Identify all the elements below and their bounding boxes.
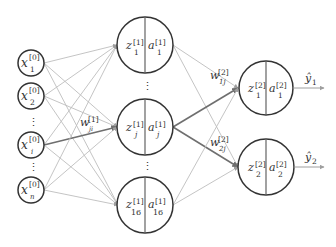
a-var: a bbox=[148, 121, 155, 134]
input-sub: 2 bbox=[30, 98, 35, 107]
hidden-node-16: z [1] 16 a [1] 16 bbox=[117, 177, 173, 233]
input-node-i: x [0] i bbox=[18, 132, 44, 158]
a-sub: 1 bbox=[157, 48, 162, 57]
z-sub: 2 bbox=[256, 170, 261, 179]
a-sub: 2 bbox=[278, 170, 283, 179]
weight-sub: 2j bbox=[218, 145, 226, 153]
z-sub: 16 bbox=[131, 208, 141, 217]
z-var: z bbox=[247, 82, 254, 95]
input-ellipsis-1: ⋮ bbox=[28, 116, 39, 129]
hidden-layer: z [1] 1 a [1] 1 ⋮ z [1] j a [1] j ⋮ z [1… bbox=[117, 17, 173, 233]
y-hat-sub: 1 bbox=[312, 78, 317, 87]
hidden-node-j: z [1] j a [1] j bbox=[117, 99, 173, 155]
input-var: x bbox=[21, 138, 28, 152]
input-node-2: x [0] 2 bbox=[18, 83, 44, 109]
z-sub: 1 bbox=[256, 91, 261, 100]
hidden-ellipsis-2: ⋮ bbox=[142, 160, 153, 173]
a-sup: [1] bbox=[155, 38, 166, 47]
input-ellipsis-2: ⋮ bbox=[28, 161, 39, 174]
z-sup: [1] bbox=[133, 120, 144, 129]
weight-label-w1-ji: w [1] ji bbox=[80, 115, 99, 133]
output-node-1: z [2] 1 a [2] 1 ŷ 1 bbox=[239, 61, 324, 115]
weight-sup: [1] bbox=[88, 115, 99, 124]
a-sup: [1] bbox=[155, 120, 166, 129]
z-sup: [2] bbox=[255, 81, 266, 90]
z-var: z bbox=[125, 39, 132, 52]
input-var: x bbox=[21, 183, 28, 197]
input-sup: [0] bbox=[29, 86, 40, 95]
output-node-2: z [2] 2 a [2] 2 ŷ 2 bbox=[238, 139, 324, 195]
input-sup: [0] bbox=[29, 53, 40, 62]
a-sup: [2] bbox=[276, 160, 287, 169]
input-var: x bbox=[21, 89, 28, 103]
z-sup: [1] bbox=[133, 197, 144, 206]
z-var: z bbox=[125, 121, 132, 134]
a-sub: 1 bbox=[278, 91, 283, 100]
a-var: a bbox=[148, 39, 155, 52]
input-layer: x [0] 1 x [0] 2 ⋮ x [0] i ⋮ x [0] n bbox=[18, 50, 44, 203]
hidden-node-1: z [1] 1 a [1] 1 bbox=[117, 17, 173, 73]
neural-network-diagram: x [0] 1 x [0] 2 ⋮ x [0] i ⋮ x [0] n bbox=[0, 0, 336, 247]
weight-sup: [2] bbox=[218, 135, 229, 144]
a-var: a bbox=[269, 161, 276, 174]
y-hat-var: ŷ bbox=[304, 72, 312, 85]
weight-sup: [2] bbox=[218, 68, 229, 77]
a-sub: 16 bbox=[153, 208, 163, 217]
z-sup: [1] bbox=[133, 38, 144, 47]
z-var: z bbox=[247, 161, 254, 174]
input-var: x bbox=[21, 56, 28, 70]
input-sup: [0] bbox=[29, 180, 40, 189]
input-sub: n bbox=[30, 193, 35, 201]
y-hat-sub: 2 bbox=[312, 157, 317, 166]
z-sup: [2] bbox=[255, 160, 266, 169]
y-hat-var: ŷ bbox=[304, 151, 312, 164]
output-layer: z [2] 1 a [2] 1 ŷ 1 z [2] 2 a [2] 2 ŷ 2 bbox=[238, 61, 324, 195]
a-var: a bbox=[269, 82, 276, 95]
input-node-1: x [0] 1 bbox=[18, 50, 44, 76]
a-sup: [2] bbox=[276, 81, 287, 90]
a-sup: [1] bbox=[155, 197, 166, 206]
z-sub: 1 bbox=[134, 48, 139, 57]
input-sub: i bbox=[31, 148, 33, 156]
input-sub: 1 bbox=[30, 65, 35, 74]
hidden-ellipsis-1: ⋮ bbox=[142, 80, 153, 93]
input-node-n: x [0] n bbox=[18, 177, 44, 203]
weight-sub: 1j bbox=[219, 78, 226, 86]
weight-label-w2-1j: w [2] 1j bbox=[210, 68, 229, 86]
input-sup: [0] bbox=[29, 135, 40, 144]
